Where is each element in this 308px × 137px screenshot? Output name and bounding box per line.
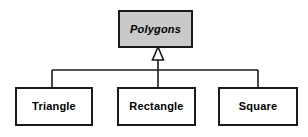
class-node-square[interactable]: Square: [218, 87, 298, 126]
uml-class-diagram: Polygons Triangle Rectangle Square: [0, 0, 308, 137]
generalization-arrowhead-icon: [153, 47, 164, 60]
class-node-polygons[interactable]: Polygons: [118, 10, 193, 48]
class-node-polygons-label: Polygons: [130, 24, 181, 35]
class-node-rectangle[interactable]: Rectangle: [117, 87, 196, 126]
class-node-rectangle-label: Rectangle: [129, 101, 183, 112]
class-node-square-label: Square: [239, 101, 278, 112]
class-node-triangle-label: Triangle: [32, 101, 76, 112]
class-node-triangle[interactable]: Triangle: [15, 87, 93, 126]
